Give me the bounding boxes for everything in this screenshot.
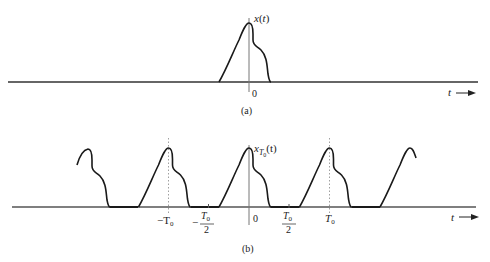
svg-text:T0: T0 [283,210,293,223]
signal-label: xT0(t) [253,142,277,158]
periodic-signal-curve [77,148,416,207]
diagram-canvas: xx(t)(t) 0 t (a) [0,0,490,262]
origin-label: 0 [252,88,257,99]
panel-b: xT0(t) 0 −T0 − T0 2 T0 2 T0 t [12,138,479,255]
svg-text:2: 2 [286,224,291,235]
origin-label: 0 [253,213,258,224]
svg-text:T0: T0 [201,210,211,223]
signal-label: xx(t)(t) [253,12,270,25]
svg-text:2: 2 [204,224,209,235]
axis-label-t: t [451,211,455,223]
svg-text:−: − [192,216,198,228]
pulse-curve [219,23,271,82]
tick-label-neg-half-T0: − T0 2 [192,210,214,235]
caption-a: (a) [241,105,252,117]
arrow-right-icon [459,214,479,220]
arrow-right-icon [456,90,476,96]
tick-label-T0: T0 [325,212,335,226]
caption-b: (b) [242,243,254,255]
panel-a: xx(t)(t) 0 t (a) [8,12,478,117]
axis-label-t: t [448,86,452,98]
tick-label-half-T0: T0 2 [282,210,296,235]
tick-label-neg-T0: −T0 [157,214,174,228]
